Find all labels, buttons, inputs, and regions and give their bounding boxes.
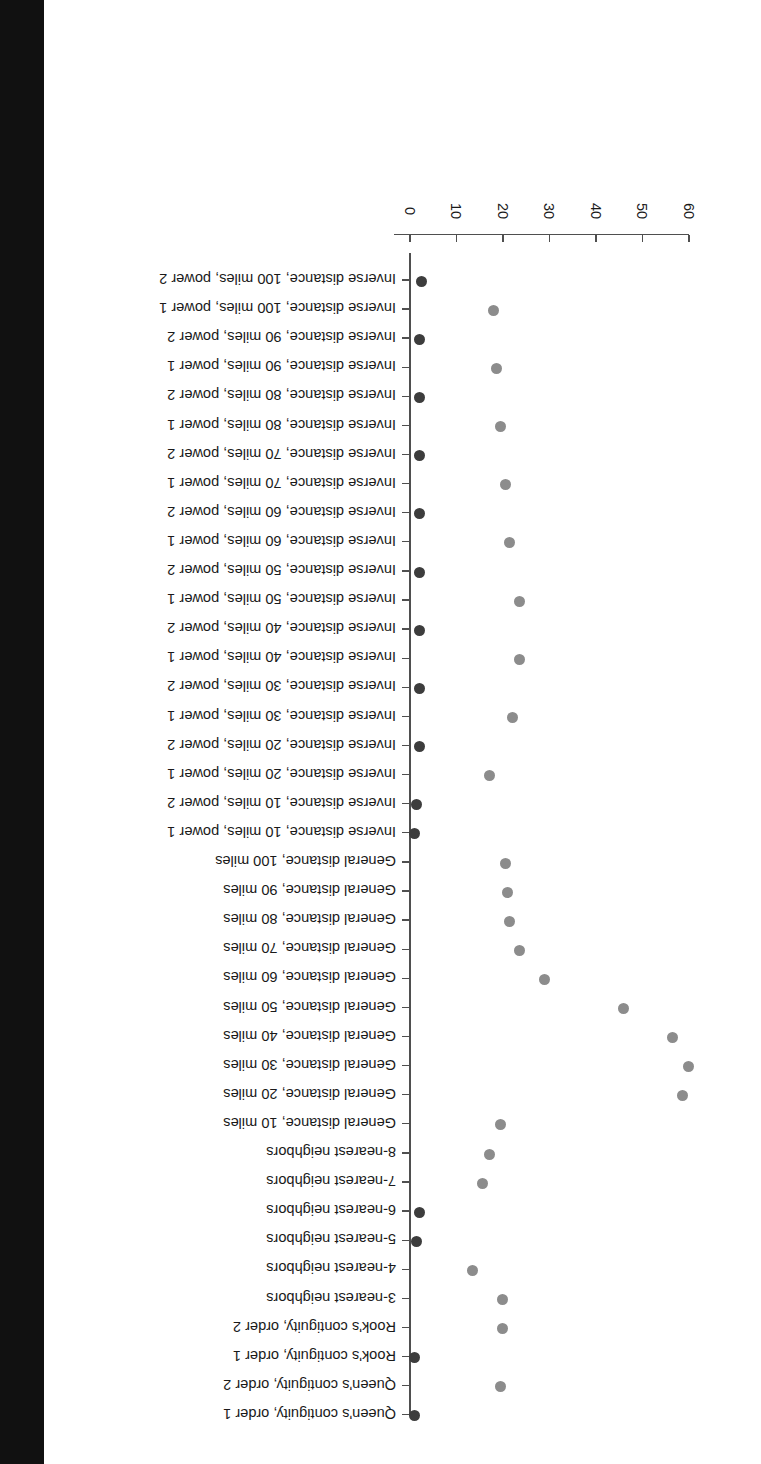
- category-tick: [402, 890, 409, 891]
- category-tick: [402, 919, 409, 920]
- category-tick: [402, 658, 409, 659]
- data-point: [484, 770, 495, 781]
- value-tick-label: 60: [681, 191, 697, 231]
- category-label: 5-nearest neighbors: [266, 1232, 396, 1247]
- value-tick-label: 0: [402, 191, 418, 231]
- category-tick: [402, 1327, 409, 1328]
- category-tick: [402, 454, 409, 455]
- category-tick: [402, 949, 409, 950]
- category-label: Queen's contiguity, order 2: [223, 1377, 396, 1392]
- category-tick: [402, 1123, 409, 1124]
- data-point: [504, 538, 515, 549]
- category-label: Inverse distance, 20 miles, power 2: [167, 737, 396, 752]
- category-label: General distance, 60 miles: [223, 970, 396, 985]
- category-label: Queen's contiguity, order 1: [223, 1406, 396, 1421]
- category-tick: [402, 1007, 409, 1008]
- data-point: [514, 596, 525, 607]
- category-tick: [402, 1356, 409, 1357]
- category-tick: [402, 1181, 409, 1182]
- figure-page: FIGURE 6.5 ⬢ Moran's I statistics of the…: [0, 0, 761, 1464]
- category-label: 6-nearest neighbors: [266, 1203, 396, 1218]
- category-label: General distance, 50 miles: [223, 999, 396, 1014]
- category-label: General distance, 20 miles: [223, 1086, 396, 1101]
- category-tick: [402, 716, 409, 717]
- category-tick: [402, 1385, 409, 1386]
- category-tick: [402, 1298, 409, 1299]
- category-label: Rook's contiguity, order 2: [233, 1319, 396, 1334]
- data-point: [677, 1090, 688, 1101]
- category-label: Inverse distance, 60 miles, power 1: [167, 533, 396, 548]
- category-label: Inverse distance, 80 miles, power 1: [167, 417, 396, 432]
- category-tick: [402, 425, 409, 426]
- value-tick-label: 40: [588, 191, 604, 231]
- data-point: [514, 654, 525, 665]
- category-tick: [402, 1414, 409, 1415]
- category-label: 3-nearest neighbors: [266, 1290, 396, 1305]
- data-point: [498, 1323, 509, 1334]
- category-label: Inverse distance, 20 miles, power 1: [167, 766, 396, 781]
- value-tick: [409, 235, 410, 242]
- category-label: Inverse distance, 10 miles, power 1: [167, 824, 396, 839]
- category-tick: [402, 1065, 409, 1066]
- category-label: 7-nearest neighbors: [266, 1174, 396, 1189]
- data-point: [414, 741, 425, 752]
- value-tick-label: 30: [542, 191, 558, 231]
- category-tick: [402, 1240, 409, 1241]
- data-point: [414, 450, 425, 461]
- data-point: [491, 363, 502, 374]
- data-point: [414, 1207, 425, 1218]
- data-point: [477, 1178, 488, 1189]
- category-label: Inverse distance, 90 miles, power 2: [167, 330, 396, 345]
- category-tick: [402, 774, 409, 775]
- data-point: [488, 305, 499, 316]
- category-label: General distance, 40 miles: [223, 1028, 396, 1043]
- category-label: Rook's contiguity, order 1: [233, 1348, 396, 1363]
- category-label: Inverse distance, 90 miles, power 1: [167, 359, 396, 374]
- category-label: Inverse distance, 10 miles, power 2: [167, 795, 396, 810]
- category-label: General distance, 30 miles: [223, 1057, 396, 1072]
- category-label: Inverse distance, 80 miles, power 2: [167, 388, 396, 403]
- category-tick: [402, 396, 409, 397]
- category-tick: [402, 367, 409, 368]
- category-label: Inverse distance, 40 miles, power 2: [167, 621, 396, 636]
- category-tick: [402, 1269, 409, 1270]
- category-label: Inverse distance, 60 miles, power 2: [167, 504, 396, 519]
- data-point: [467, 1265, 478, 1276]
- data-point: [414, 625, 425, 636]
- category-label: General distance, 100 miles: [215, 854, 396, 869]
- data-point: [414, 508, 425, 519]
- category-tick: [402, 570, 409, 571]
- data-point: [409, 1411, 420, 1422]
- value-tick: [502, 235, 503, 242]
- category-label: Inverse distance, 30 miles, power 2: [167, 679, 396, 694]
- data-point: [498, 1294, 509, 1305]
- data-point: [514, 945, 525, 956]
- category-label: 8-nearest neighbors: [266, 1145, 396, 1160]
- data-point: [411, 1236, 422, 1247]
- scatter-plot: 0102030405060 Queen's contiguity, order …: [44, 0, 761, 1464]
- data-point: [411, 799, 422, 810]
- figure-caption-band: FIGURE 6.5 ⬢ Moran's I statistics of the…: [0, 0, 44, 1464]
- value-tick-label: 50: [635, 191, 651, 231]
- value-tick-label: 20: [495, 191, 511, 231]
- data-point: [414, 683, 425, 694]
- value-tick: [549, 235, 550, 242]
- data-point: [504, 916, 515, 927]
- value-tick: [688, 235, 689, 242]
- category-tick: [402, 861, 409, 862]
- category-tick: [402, 279, 409, 280]
- data-point: [507, 712, 518, 723]
- value-tick-label: 10: [449, 191, 465, 231]
- data-point: [484, 1149, 495, 1160]
- category-label: Inverse distance, 100 miles, power 1: [159, 301, 396, 316]
- category-tick: [402, 337, 409, 338]
- value-tick: [595, 235, 596, 242]
- data-point: [500, 479, 511, 490]
- value-tick: [642, 235, 643, 242]
- value-axis-line: [394, 234, 689, 235]
- data-point: [539, 974, 550, 985]
- data-point: [414, 334, 425, 345]
- data-point: [495, 1120, 506, 1131]
- data-point: [618, 1003, 629, 1014]
- category-tick: [402, 308, 409, 309]
